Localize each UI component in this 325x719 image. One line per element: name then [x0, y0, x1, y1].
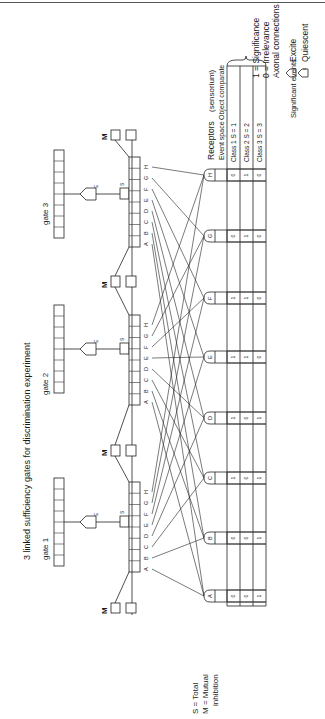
svg-text:H: H [143, 323, 149, 327]
receptor-nodes: ABCDEFGH [204, 169, 227, 602]
m-label: M [100, 133, 109, 140]
cell-value: 0 [256, 297, 262, 300]
cell-value: 0 [256, 174, 262, 177]
svg-text:D: D [143, 367, 149, 371]
svg-text:C: C [143, 545, 149, 549]
class-1-label: Class 1 S = 1 [230, 123, 237, 162]
gate-1-excite-tag: E [93, 512, 99, 516]
cell-value: 0 [230, 595, 236, 598]
svg-text:G: G [207, 234, 213, 238]
svg-text:E: E [143, 198, 149, 202]
receptor-node-b: B [204, 532, 227, 544]
cell-value: 1 [243, 174, 249, 177]
svg-text:A: A [143, 242, 149, 246]
svg-text:B: B [143, 231, 149, 235]
svg-text:E: E [143, 523, 149, 527]
gate-2-sum-box [120, 343, 129, 354]
gate-2-excite-icon [80, 343, 96, 355]
gate-2-excite-tag: E [93, 339, 99, 343]
cell-value: 1 [243, 235, 249, 238]
cell-value: 0 [256, 356, 262, 359]
svg-text:G: G [143, 501, 149, 505]
m-box [126, 445, 136, 456]
svg-text:H: H [143, 490, 149, 494]
gate-3: E S [54, 150, 140, 247]
svg-text:H: H [143, 165, 149, 169]
svg-text:B: B [207, 536, 213, 540]
svg-text:F: F [143, 187, 149, 191]
legend: 1 = Significance 0 = Irrelevance Axonal … [251, 4, 310, 78]
gate-1-excite-icon [80, 516, 96, 528]
cell-value: 0 [243, 595, 249, 598]
svg-text:H: H [207, 173, 213, 177]
receptors-subheader: (sensorium) [207, 69, 216, 112]
legend-axonal-connections: Axonal connections [271, 4, 281, 78]
svg-text:A: A [143, 567, 149, 571]
cell-value: 1 [256, 595, 262, 598]
svg-text:D: D [143, 209, 149, 213]
cell-value: 1 [256, 537, 262, 540]
m-label: M [100, 281, 109, 288]
cell-value: 0 [243, 537, 249, 540]
cell-value: 1 [230, 356, 236, 359]
m-box [111, 276, 120, 287]
svg-text:E: E [143, 356, 149, 360]
gate-1-sum-box [120, 516, 129, 527]
svg-text:G: G [143, 176, 149, 180]
gate-2-sum-tag: S [119, 337, 125, 341]
object-comparate-label: Object comparate [218, 65, 226, 120]
legend-significance: 1 = Significance [251, 17, 261, 78]
receptor-node-d: D [204, 412, 227, 424]
receptor-node-h: H [204, 169, 227, 181]
cell-value: 1 [243, 356, 249, 359]
svg-text:G: G [143, 334, 149, 338]
quiescent-symbol-value: 0 [302, 67, 307, 70]
gate-1-sum-tag: S [119, 510, 125, 514]
receptor-node-f: F [204, 292, 227, 304]
svg-text:F: F [143, 512, 149, 516]
figure-title: 3 linked sufficiency gates for discrimin… [22, 342, 32, 560]
gate-input-letters: A B C D E F G H A B C D E F G H A B C D … [143, 165, 149, 571]
gate-3-excite-tag: E [93, 184, 99, 188]
svg-text:B: B [143, 389, 149, 393]
event-space-label: Event space [218, 121, 226, 160]
gate-3-sum-tag: S [119, 182, 125, 186]
m-box [126, 603, 136, 613]
svg-text:C: C [143, 378, 149, 382]
diagram-canvas: 1 = Significance 0 = Irrelevance Axonal … [0, 0, 325, 719]
m-label: M [100, 449, 109, 456]
cell-value: 1 [243, 297, 249, 300]
m-box [126, 130, 136, 140]
svg-text:E: E [207, 355, 213, 359]
cell-value: 1 [230, 417, 236, 420]
svg-text:C: C [143, 220, 149, 224]
cell-value: 1 [256, 477, 262, 480]
svg-text:D: D [207, 416, 213, 420]
m-label: M [100, 607, 109, 614]
svg-text:A: A [143, 400, 149, 404]
gate-2-label: gate 2 [41, 372, 50, 395]
svg-text:F: F [143, 345, 149, 349]
receptor-node-e: E [204, 351, 227, 363]
receptor-node-a: A [204, 590, 227, 602]
cell-value: 0 [256, 235, 262, 238]
gate-3-label: gate 3 [41, 202, 50, 225]
cell-value: 1 [230, 297, 236, 300]
gate-1: E S [54, 478, 140, 572]
svg-text:C: C [207, 476, 213, 480]
cell-value: 0 [230, 174, 236, 177]
receptor-node-g: G [204, 230, 227, 242]
class-2-label: Class 2 S = 2 [243, 123, 250, 162]
cell-value: 0 [243, 477, 249, 480]
gate-3-excite-icon [80, 188, 96, 200]
axonal-connections [152, 167, 204, 596]
class-3-label: Class 3 S = 3 [256, 123, 263, 162]
cell-value: 0 [230, 537, 236, 540]
cell-value: 0 [243, 417, 249, 420]
receptors-header: Receptors [206, 121, 216, 160]
svg-text:D: D [143, 534, 149, 538]
m-box [111, 130, 120, 140]
cell-value: 0 [230, 235, 236, 238]
m-box [111, 603, 120, 613]
significant-events-label: Significant events [289, 59, 298, 118]
